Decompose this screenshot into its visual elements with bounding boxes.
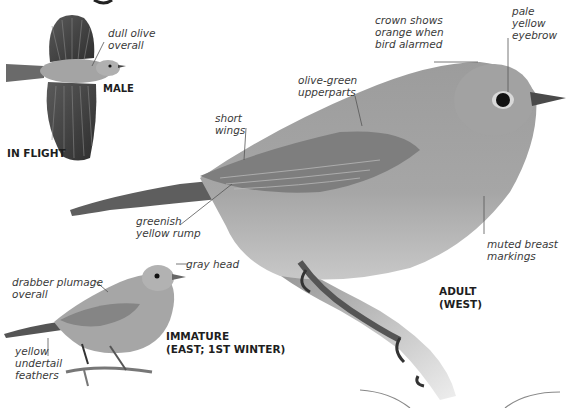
tail — [6, 64, 44, 82]
annotation-undertail: yellow undertail feathers — [15, 345, 62, 381]
annotation-line: eyebrow — [512, 29, 557, 41]
beak — [530, 92, 566, 106]
annotation-breast: muted breast markings — [487, 238, 558, 262]
caption-adult: ADULT (WEST) — [439, 285, 482, 311]
caption-line: ADULT — [439, 285, 482, 298]
caption-line: IMMATURE — [166, 330, 285, 343]
tail — [4, 322, 62, 338]
beak — [172, 274, 186, 280]
annotation-line: orange when — [375, 26, 444, 38]
caption-line: (WEST) — [439, 298, 482, 311]
annotation-line: olive-green — [298, 74, 357, 86]
eye — [496, 93, 510, 107]
annotation-line: pale — [512, 5, 557, 17]
annotation-upperparts: olive-green upperparts — [298, 74, 357, 98]
annotation-line: feathers — [15, 369, 62, 381]
annotation-line: greenish — [136, 215, 201, 227]
annotation-line: yellow rump — [136, 227, 201, 239]
annotation-dull-olive: dull olive overall — [108, 27, 155, 51]
beak — [118, 65, 126, 68]
annotation-line: short — [215, 112, 245, 124]
caption-immature: IMMATURE (EAST; 1ST WINTER) — [166, 330, 285, 356]
sex-label-male: MALE — [103, 82, 134, 95]
annotation-gray-head: gray head — [186, 258, 239, 270]
annotation-line: crown shows — [375, 14, 444, 26]
annotation-line: bird alarmed — [375, 38, 444, 50]
decorative-arc-left — [360, 390, 410, 408]
annotation-line: markings — [487, 250, 558, 262]
annotation-crown: crown shows orange when bird alarmed — [375, 14, 444, 50]
annotation-line: undertail — [15, 357, 62, 369]
annotation-line: yellow — [15, 345, 62, 357]
annotation-drabber-plumage: drabber plumage overall — [12, 276, 103, 300]
annotation-line: wings — [215, 124, 245, 136]
decorative-arc-right — [505, 392, 560, 408]
annotation-eyebrow: pale yellow eyebrow — [512, 5, 557, 41]
head — [96, 60, 120, 76]
annotation-short-wings: short wings — [215, 112, 245, 136]
caption-line: (EAST; 1ST WINTER) — [166, 343, 285, 356]
annotation-line: yellow — [512, 17, 557, 29]
caption-in-flight: IN FLIGHT — [7, 147, 66, 160]
annotation-line: drabber plumage — [12, 276, 103, 288]
field-guide-page: dull olive overall MALE IN FLIGHT crown … — [0, 0, 568, 408]
eye — [155, 274, 160, 279]
annotation-line: overall — [108, 39, 155, 51]
annotation-line: overall — [12, 288, 103, 300]
perch-twig — [66, 368, 152, 372]
upper-wing — [49, 15, 94, 62]
heading-glyph-fragment — [94, 0, 112, 3]
annotation-line: muted breast — [487, 238, 558, 250]
annotation-rump: greenish yellow rump — [136, 215, 201, 239]
annotation-line: upperparts — [298, 86, 357, 98]
annotation-line: dull olive — [108, 27, 155, 39]
